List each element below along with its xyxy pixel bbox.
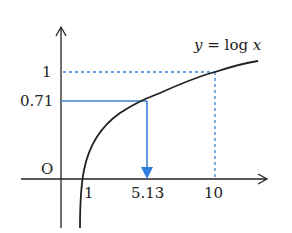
equation-label: y = log x	[193, 36, 262, 54]
y-tick-1: 1	[42, 63, 52, 81]
x-tick-1: 1	[84, 184, 94, 202]
arrow-down-icon	[141, 167, 153, 179]
log-curve	[80, 61, 258, 228]
y-tick-071: 0.71	[20, 92, 53, 110]
x-tick-513: 5.13	[131, 184, 164, 202]
x-tick-10: 10	[204, 184, 223, 202]
log-graph: y = log x 1 0.71 O 1 5.13 10	[0, 0, 292, 233]
origin-label: O	[41, 160, 53, 178]
